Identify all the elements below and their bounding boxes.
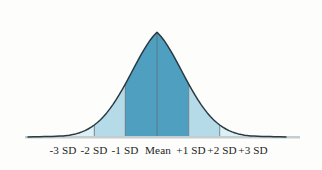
- tick-label-minus-3-sd: -3 SD: [50, 143, 77, 157]
- axis-tick-label-row: -3 SD -2 SD -1 SD Mean +1 SD +2 SD +3 SD: [0, 143, 322, 163]
- band-mean-to-plus-1-sd: [157, 32, 189, 137]
- tick-label-plus-2-sd: +2 SD: [207, 143, 237, 157]
- band-minus-1-sd-to-mean: [125, 32, 157, 137]
- normal-distribution-figure: -3 SD -2 SD -1 SD Mean +1 SD +2 SD +3 SD: [0, 0, 322, 170]
- sd-divider-group: [63, 32, 250, 137]
- tick-label-mean: Mean: [145, 143, 171, 157]
- tick-label-plus-3-sd: +3 SD: [238, 143, 268, 157]
- tick-label-minus-1-sd: -1 SD: [112, 143, 139, 157]
- tick-label-minus-2-sd: -2 SD: [81, 143, 108, 157]
- tick-label-plus-1-sd: +1 SD: [176, 143, 206, 157]
